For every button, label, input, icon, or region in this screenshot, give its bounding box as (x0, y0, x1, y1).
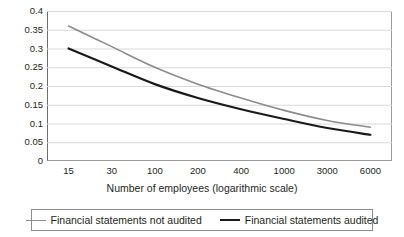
x-axis: 1530100200400100030006000 (47, 166, 392, 180)
chart-legend: Financial statements not audited Financi… (31, 209, 373, 231)
legend-swatch-audited (220, 219, 240, 221)
y-tick-label: 0.35 (3, 25, 43, 35)
y-tick-label: 0 (3, 156, 43, 166)
series-line (69, 26, 371, 127)
x-tick-label: 200 (178, 166, 218, 176)
y-tick-label: 0.3 (3, 44, 43, 54)
y-axis: 00.050.10.150.20.250.30.350.4 (0, 0, 43, 237)
x-tick-label: 1000 (264, 166, 304, 176)
y-tick-label: 0.25 (3, 62, 43, 72)
legend-swatch-not-audited (26, 220, 46, 221)
y-tick-label: 0.2 (3, 81, 43, 91)
legend-item-not-audited: Financial statements not audited (26, 214, 202, 226)
y-tick-label: 0.1 (3, 119, 43, 129)
x-tick-label: 6000 (350, 166, 390, 176)
x-axis-title: Number of employees (logarithmic scale) (0, 182, 404, 194)
x-tick-label: 400 (221, 166, 261, 176)
x-tick-label: 100 (135, 166, 175, 176)
legend-label-not-audited: Financial statements not audited (51, 214, 202, 226)
chart-figure: 00.050.10.150.20.250.30.350.4 1530100200… (0, 0, 404, 237)
y-tick-label: 0.4 (3, 6, 43, 16)
plot-canvas (47, 11, 392, 161)
y-tick-label: 0.05 (3, 137, 43, 147)
x-tick-label: 15 (49, 166, 89, 176)
x-tick-label: 3000 (307, 166, 347, 176)
x-tick-label: 30 (92, 166, 132, 176)
y-tick-label: 0.15 (3, 100, 43, 110)
legend-label-audited: Financial statements audited (245, 214, 379, 226)
legend-item-audited: Financial statements audited (220, 214, 379, 226)
